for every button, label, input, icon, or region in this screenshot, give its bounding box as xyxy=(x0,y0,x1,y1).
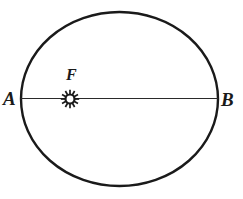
ellipse-diagram-figure: A B F xyxy=(0,0,243,199)
vertex-label-b: B xyxy=(221,90,234,109)
focus-label-f: F xyxy=(66,67,77,83)
sun-icon xyxy=(61,90,79,108)
vertex-label-a: A xyxy=(3,89,16,108)
ellipse-diagram-canvas xyxy=(0,0,243,199)
